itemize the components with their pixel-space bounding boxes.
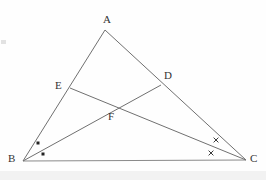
side-BC	[23, 160, 246, 161]
cevian-EC	[70, 88, 246, 160]
vertex-label-c: C	[250, 153, 257, 164]
angle-mark-b-lower-dot-icon	[42, 153, 45, 156]
angle-mark-c-lower-cross-icon	[209, 151, 214, 156]
vertex-label-d: D	[164, 70, 172, 81]
vertex-label-e: E	[55, 80, 62, 91]
geometry-figure: A B C D E F	[0, 0, 266, 180]
vertex-label-a: A	[103, 14, 111, 25]
side-AC	[105, 30, 246, 160]
side-AB	[23, 30, 105, 161]
vertex-label-f: F	[108, 111, 114, 122]
triangle-drawing	[0, 0, 266, 180]
cevian-BD	[23, 85, 161, 161]
vertex-label-b: B	[8, 153, 15, 164]
angle-mark-c-upper-cross-icon	[214, 138, 219, 143]
angle-mark-b-upper-dot-icon	[37, 142, 40, 145]
